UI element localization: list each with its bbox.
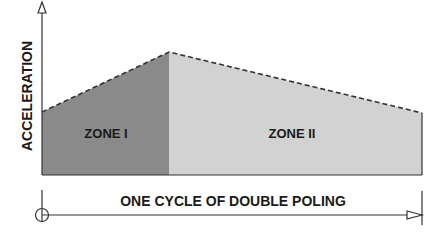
zone-1-area (42, 52, 169, 175)
x-axis-arrow-icon (407, 211, 422, 219)
y-axis-arrow-icon (38, 2, 46, 13)
acceleration-diagram: ACCELERATION ZONE I ZONE II ONE CYCLE OF… (0, 0, 443, 245)
y-axis-label: ACCELERATION (19, 41, 35, 151)
zone-2-label: ZONE II (269, 126, 316, 141)
x-axis-label: ONE CYCLE OF DOUBLE POLING (120, 193, 346, 209)
zone-1-label: ZONE I (84, 126, 127, 141)
zone-2-area (169, 52, 422, 175)
